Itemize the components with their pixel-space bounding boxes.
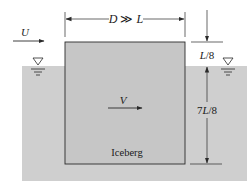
top-dimension-label: L/8 bbox=[199, 49, 215, 61]
stream-velocity-label: U bbox=[21, 26, 30, 38]
width-dimension-label: D ≫ L bbox=[108, 12, 144, 26]
iceberg-label: Iceberg bbox=[111, 147, 143, 158]
width-dimension: D ≫ L bbox=[65, 12, 185, 37]
iceberg-diagram: D ≫ L L/8 7L/8 U V Iceberg bbox=[0, 0, 249, 186]
stream-velocity: U bbox=[13, 26, 44, 41]
bottom-dimension-label: 7L/8 bbox=[197, 104, 218, 116]
